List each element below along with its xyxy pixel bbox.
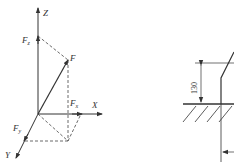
force-vector [38, 60, 68, 114]
ground-hatching [183, 106, 232, 122]
fy-arrow [24, 134, 28, 141]
force-label: F [69, 53, 76, 63]
y-axis-label: Y [5, 150, 11, 160]
structure-profile [221, 52, 234, 104]
dimension-value: 130 [190, 82, 199, 94]
z-axis-label: Z [43, 8, 49, 18]
dimension-drawing [183, 52, 234, 162]
x-axis-label: X [91, 100, 98, 110]
fz-label: Fz [21, 35, 31, 46]
diagram-canvas: Z X Y F Fz Fx Fy 130 [0, 0, 234, 162]
fx-label: Fx [69, 98, 79, 109]
fy-label: Fy [12, 123, 22, 134]
force-decomposition-diagram: Z X Y F Fz Fx Fy [5, 8, 102, 160]
